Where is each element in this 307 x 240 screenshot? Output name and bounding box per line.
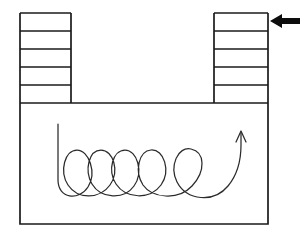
left-graduated-column: [20, 13, 71, 103]
vessel-outline-path: [20, 13, 268, 224]
helical-coil: [58, 124, 246, 198]
left-arrow-icon: [270, 14, 300, 28]
left-pointing-arrow: [270, 14, 300, 28]
diagram-svg: [0, 0, 307, 240]
diagram-canvas: [0, 0, 307, 240]
helical-coil-path: [58, 124, 241, 198]
right-graduated-column: [214, 13, 268, 103]
u-shaped-vessel: [20, 13, 268, 224]
